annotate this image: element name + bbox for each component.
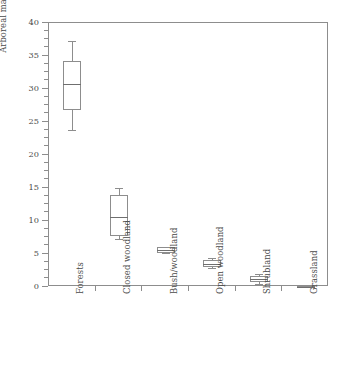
box-plot-box <box>49 23 329 287</box>
y-axis-tick-label: 30 <box>14 82 39 94</box>
x-axis-category-label: Shrubland <box>262 249 272 294</box>
x-axis-category-label: Forests <box>75 262 85 294</box>
y-axis-tick-label: 0 <box>14 280 39 292</box>
y-axis-tick-label: 5 <box>14 247 39 259</box>
x-axis-category-label: Closed woodland <box>122 220 132 294</box>
y-axis-tick-label: 15 <box>14 181 39 193</box>
x-axis-category-label: Bush/woodland <box>169 228 179 294</box>
y-axis-label: Arboreal mammals (%) <box>0 0 12 88</box>
y-axis-tick-label: 25 <box>14 115 39 127</box>
y-axis-tick-label: 40 <box>14 16 39 28</box>
y-axis-tick-label: 20 <box>14 148 39 160</box>
x-axis-category-label: Grassland <box>309 250 319 294</box>
x-axis-category-label: Open woodland <box>215 226 225 294</box>
y-axis-tick-label: 10 <box>14 214 39 226</box>
box-plot-figure: Arboreal mammals (%) 0510152025303540 Fo… <box>0 0 340 384</box>
y-axis-tick-label: 35 <box>14 49 39 61</box>
plot-area <box>48 22 328 286</box>
